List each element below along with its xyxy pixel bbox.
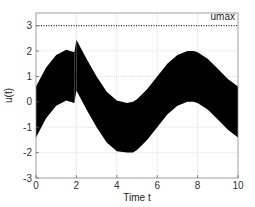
x-tick-label: 0 [33,180,39,191]
x-tick-label: 8 [195,180,201,191]
x-tick-label: 4 [114,180,120,191]
y-tick-label: 1 [26,71,32,82]
y-tick-label: -1 [23,122,32,133]
y-tick-label: 0 [26,96,32,107]
y-tick-label: 2 [26,46,32,57]
x-tick-label: 10 [232,180,244,191]
y-tick-label: 3 [26,20,32,31]
chart: umax0246810-3-2-10123Time tu(t) [0,0,255,207]
x-axis-label: Time t [123,192,151,203]
y-axis-label: u(t) [3,88,14,103]
umax-label: umax [211,11,235,22]
x-tick-label: 2 [74,180,80,191]
y-tick-label: -3 [23,173,32,184]
y-tick-label: -2 [23,147,32,158]
x-tick-label: 6 [154,180,160,191]
